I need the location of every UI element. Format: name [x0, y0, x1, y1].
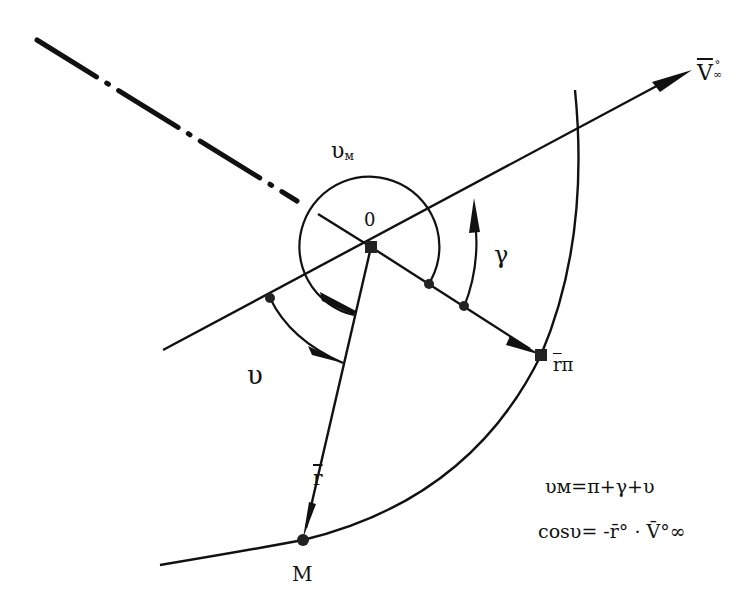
v-infinity-line	[163, 81, 666, 350]
node-gamma-periapsis	[459, 301, 469, 311]
r-pi-symbol: r	[553, 354, 562, 375]
trajectory-diagram	[0, 0, 756, 601]
node-asymptote-upsilon	[265, 293, 275, 303]
formula-upsilon-m: υм=π+γ+υ	[545, 475, 654, 497]
label-point-M: M	[292, 564, 312, 584]
node-circle-periapsis	[424, 279, 434, 289]
formula-cos-upsilon: cosυ= -r̄° · V̄°∞	[538, 520, 686, 542]
label-upsilon: υ	[247, 362, 263, 388]
upsilon-m-symbol: υ	[331, 138, 344, 163]
upsilon-m-arrowhead-icon	[320, 292, 356, 315]
upsilon-m-subscript: м	[344, 149, 353, 163]
upsilon-arrowhead-icon	[308, 346, 343, 363]
node-M	[297, 534, 309, 546]
r-pi-subscript: π	[562, 354, 574, 375]
label-upsilon-m: υм	[331, 140, 354, 162]
center-node-O	[365, 241, 377, 253]
upsilon-arc	[270, 298, 343, 363]
label-radius-vector: r	[313, 468, 323, 488]
radius-arrowhead-icon	[303, 502, 316, 538]
dash-dot-axis	[37, 40, 297, 201]
v-infinity-arrowhead-icon	[652, 70, 692, 92]
label-v-infinity: V°∞	[697, 62, 722, 84]
label-r-pi: rπ	[553, 356, 573, 374]
node-r-pi	[535, 349, 547, 361]
label-gamma: γ	[494, 243, 508, 267]
gamma-arrowhead-icon	[469, 198, 480, 233]
v-infinity-symbol: V	[697, 60, 713, 85]
label-center-O: 0	[364, 211, 375, 229]
v-infinity-subscript: ∞	[713, 71, 722, 80]
